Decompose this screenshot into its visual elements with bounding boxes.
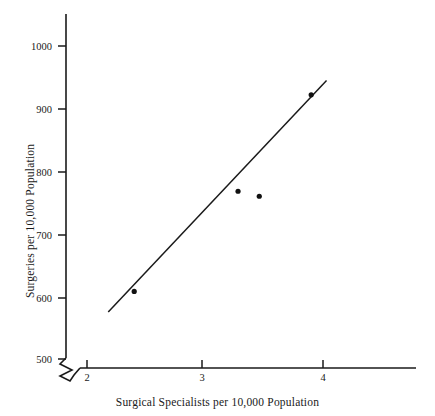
y-axis-title: Surgeries per 10,000 Population	[24, 144, 36, 298]
data-point	[309, 92, 314, 97]
plot-canvas	[0, 0, 435, 416]
x-tick-label-3: 3	[199, 372, 204, 383]
y-tick-label-1000: 1000	[20, 41, 52, 52]
data-point	[257, 194, 262, 199]
y-tick-label-500: 500	[20, 354, 52, 365]
x-axis-ticks	[87, 360, 323, 368]
regression-line	[108, 80, 326, 312]
data-point	[235, 189, 240, 194]
x-tick-label-4: 4	[320, 372, 325, 383]
axis-break-zigzag	[60, 358, 80, 381]
data-point	[132, 289, 137, 294]
y-axis-ticks	[58, 46, 66, 359]
axes	[58, 14, 416, 381]
data-layer	[108, 80, 326, 312]
y-tick-label-900: 900	[20, 104, 52, 115]
x-tick-label-2: 2	[84, 372, 89, 383]
x-axis-title: Surgical Specialists per 10,000 Populati…	[0, 396, 435, 408]
scatter-plot: 1000 900 800 700 600 500 2 3 4 Surgical …	[0, 0, 435, 416]
